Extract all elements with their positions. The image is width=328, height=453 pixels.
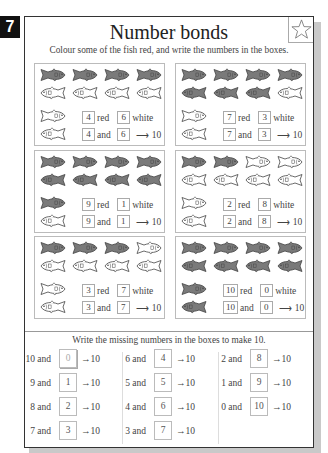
white-fish-icon[interactable]: [38, 282, 68, 296]
red-fish-icon[interactable]: [70, 173, 100, 187]
red-fish-icon[interactable]: [38, 196, 68, 210]
white-fish-icon[interactable]: [275, 86, 305, 100]
red-fish-icon[interactable]: [275, 259, 305, 273]
white-fish-icon[interactable]: [38, 86, 68, 100]
answer-box[interactable]: 10: [250, 397, 268, 416]
first-addend-box[interactable]: 10: [223, 301, 238, 314]
second-addend-box[interactable]: 6: [117, 128, 130, 141]
red-fish-icon[interactable]: [70, 68, 100, 82]
red-fish-icon[interactable]: [38, 173, 68, 187]
bond-row: 0 and10→10: [208, 397, 291, 416]
white-fish-icon[interactable]: [134, 241, 164, 255]
first-addend-box[interactable]: 2: [223, 215, 236, 228]
red-fish-icon[interactable]: [243, 68, 273, 82]
answer-box[interactable]: 3: [59, 421, 77, 440]
white-fish-icon[interactable]: [102, 259, 132, 273]
answer-box[interactable]: 4: [154, 349, 172, 368]
red-fish-icon[interactable]: [102, 155, 132, 169]
red-fish-icon[interactable]: [275, 241, 305, 255]
red-fish-icon[interactable]: [102, 173, 132, 187]
first-addend-box[interactable]: 7: [223, 128, 236, 141]
red-fish-icon[interactable]: [38, 241, 68, 255]
red-fish-icon[interactable]: [211, 86, 241, 100]
white-fish-icon[interactable]: [211, 173, 241, 187]
white-count-box[interactable]: 3: [258, 111, 271, 124]
second-addend-box[interactable]: 1: [117, 215, 130, 228]
red-fish-icon[interactable]: [275, 68, 305, 82]
white-fish-icon[interactable]: [38, 109, 68, 123]
red-count-box[interactable]: 2: [223, 198, 236, 211]
white-fish-icon[interactable]: [179, 214, 209, 228]
answer-box[interactable]: 0: [59, 349, 77, 368]
answer-box[interactable]: 8: [250, 349, 268, 368]
white-fish-icon[interactable]: [275, 173, 305, 187]
red-fish-icon[interactable]: [179, 86, 209, 100]
white-fish-icon[interactable]: [38, 259, 68, 273]
red-fish-icon[interactable]: [211, 259, 241, 273]
answer-box[interactable]: 7: [154, 421, 172, 440]
red-fish-icon[interactable]: [243, 241, 273, 255]
red-fish-icon[interactable]: [243, 259, 273, 273]
second-addend-box[interactable]: 0: [260, 301, 273, 314]
red-fish-icon[interactable]: [70, 155, 100, 169]
red-fish-icon[interactable]: [134, 173, 164, 187]
red-count-box[interactable]: 9: [82, 198, 95, 211]
red-fish-icon[interactable]: [70, 241, 100, 255]
second-addend-box[interactable]: 7: [117, 301, 130, 314]
bond-label: 1 and: [208, 378, 242, 388]
answer-box[interactable]: 2: [59, 397, 77, 416]
white-fish-icon[interactable]: [134, 259, 164, 273]
red-fish-icon[interactable]: [211, 155, 241, 169]
white-count-box[interactable]: 8: [258, 198, 271, 211]
white-fish-icon[interactable]: [38, 214, 68, 228]
red-count-box[interactable]: 10: [223, 284, 238, 297]
red-fish-icon[interactable]: [211, 241, 241, 255]
red-fish-icon[interactable]: [179, 300, 209, 314]
second-addend-box[interactable]: 8: [258, 215, 271, 228]
white-count-box[interactable]: 0: [260, 284, 273, 297]
white-fish-icon[interactable]: [179, 196, 209, 210]
white-fish-icon[interactable]: [38, 127, 68, 141]
red-fish-icon[interactable]: [179, 241, 209, 255]
red-label: red: [97, 113, 109, 123]
fish-row: [179, 173, 305, 187]
answer-box[interactable]: 5: [154, 373, 172, 392]
white-fish-icon[interactable]: [38, 300, 68, 314]
white-fish-icon[interactable]: [179, 109, 209, 123]
white-fish-icon[interactable]: [243, 155, 273, 169]
red-fish-icon[interactable]: [134, 68, 164, 82]
first-addend-box[interactable]: 3: [82, 301, 95, 314]
red-fish-icon[interactable]: [179, 259, 209, 273]
second-addend-box[interactable]: 3: [258, 128, 271, 141]
red-fish-icon[interactable]: [38, 68, 68, 82]
white-fish-icon[interactable]: [102, 86, 132, 100]
red-fish-icon[interactable]: [211, 68, 241, 82]
red-fish-icon[interactable]: [243, 86, 273, 100]
white-fish-icon[interactable]: [70, 86, 100, 100]
white-fish-icon[interactable]: [275, 155, 305, 169]
answer-box[interactable]: 6: [154, 397, 172, 416]
white-fish-icon[interactable]: [179, 127, 209, 141]
white-fish-icon[interactable]: [134, 86, 164, 100]
white-count-box[interactable]: 7: [117, 284, 130, 297]
red-count-box[interactable]: 4: [82, 111, 95, 124]
and-label: and: [97, 303, 111, 313]
first-addend-box[interactable]: 9: [82, 215, 95, 228]
answer-box[interactable]: 1: [59, 373, 77, 392]
white-count-box[interactable]: 1: [117, 198, 130, 211]
white-count-box[interactable]: 6: [117, 111, 130, 124]
red-fish-icon[interactable]: [179, 68, 209, 82]
first-addend-box[interactable]: 4: [82, 128, 95, 141]
red-fish-icon[interactable]: [102, 68, 132, 82]
red-count-box[interactable]: 7: [223, 111, 236, 124]
red-count-box[interactable]: 3: [82, 284, 95, 297]
red-fish-icon[interactable]: [179, 282, 209, 296]
red-fish-icon[interactable]: [102, 241, 132, 255]
white-fish-icon[interactable]: [243, 173, 273, 187]
red-fish-icon[interactable]: [179, 155, 209, 169]
white-fish-icon[interactable]: [179, 173, 209, 187]
answer-box[interactable]: 9: [250, 373, 268, 392]
red-fish-icon[interactable]: [134, 155, 164, 169]
white-fish-icon[interactable]: [70, 259, 100, 273]
red-fish-icon[interactable]: [38, 155, 68, 169]
